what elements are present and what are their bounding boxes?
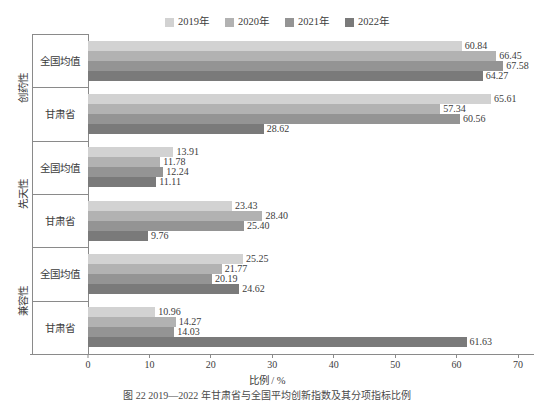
legend-item[interactable]: 2020年: [225, 17, 269, 27]
legend-item[interactable]: 2021年: [285, 17, 329, 27]
tick-label: 30: [267, 359, 277, 370]
category-axis: 创药性全国均值甘肃省先天性全国均值甘肃省兼容性全国均值甘肃省: [10, 34, 88, 354]
legend-label: 2022年: [358, 17, 389, 27]
category-subgroup-label-text: 全国均值: [40, 160, 80, 175]
x-axis-tick: 50: [390, 354, 400, 370]
bar-value-label: 61.63: [470, 337, 493, 347]
category-group: 创药性全国均值甘肃省: [10, 34, 88, 141]
legend-item[interactable]: 2019年: [165, 17, 209, 27]
bar-row: 11.11: [88, 177, 181, 187]
bar[interactable]: [88, 211, 262, 221]
bar[interactable]: [88, 167, 163, 177]
bar[interactable]: [88, 94, 491, 104]
x-axis-tick: 40: [329, 354, 339, 370]
bar[interactable]: [88, 147, 173, 157]
tick-label: 10: [144, 359, 154, 370]
x-axis-tick: 20: [206, 354, 216, 370]
bar-row: 57.34: [88, 104, 466, 114]
tick-label: 20: [206, 359, 216, 370]
legend-label: 2020年: [238, 17, 269, 27]
bar[interactable]: [88, 201, 232, 211]
category-group-label: 创药性: [12, 34, 32, 141]
bar[interactable]: [88, 61, 503, 71]
bar-row: 28.62: [88, 124, 289, 134]
bar-value-label: 24.62: [242, 284, 265, 294]
tick-mark: [149, 354, 150, 358]
tick-mark: [395, 354, 396, 358]
bar[interactable]: [88, 317, 176, 327]
bar[interactable]: [88, 71, 483, 81]
category-subgroup-label: 甘肃省: [32, 194, 88, 247]
bar-value-label: 25.25: [246, 254, 269, 264]
legend-swatch-icon: [345, 18, 354, 27]
category-group-label-text: 兼容性: [15, 286, 30, 316]
bar-value-label: 60.56: [463, 114, 486, 124]
subgroup-separator: [32, 194, 88, 195]
tick-label: 70: [513, 359, 523, 370]
bar[interactable]: [88, 231, 148, 241]
bar[interactable]: [88, 41, 462, 51]
bar-row: 64.27: [88, 71, 508, 81]
bar[interactable]: [88, 124, 264, 134]
x-axis-tick: 70: [513, 354, 523, 370]
category-subgroup-label-text: 全国均值: [40, 53, 80, 68]
subgroup-separator: [32, 87, 88, 88]
bar-value-label: 60.84: [465, 41, 488, 51]
group-separator: [32, 141, 88, 142]
category-subgroup-label-text: 甘肃省: [45, 320, 75, 335]
group-separator: [32, 34, 88, 35]
legend-label: 2019年: [178, 17, 209, 27]
tick-mark: [456, 354, 457, 358]
tick-label: 50: [390, 359, 400, 370]
bar-value-label: 20.19: [215, 274, 238, 284]
bar[interactable]: [88, 264, 222, 274]
bar-value-label: 28.62: [267, 124, 290, 134]
legend-label: 2021年: [298, 17, 329, 27]
chart-figure: 2019年2020年2021年2022年 创药性全国均值甘肃省先天性全国均值甘肃…: [0, 0, 534, 401]
category-group-label: 先天性: [12, 141, 32, 248]
x-axis-title: 比例 / %: [0, 372, 534, 387]
bar[interactable]: [88, 327, 174, 337]
category-subgroup-label-text: 全国均值: [40, 266, 80, 281]
tick-mark: [333, 354, 334, 358]
bar[interactable]: [88, 104, 440, 114]
bar-row: 9.76: [88, 231, 168, 241]
bar-row: 25.40: [88, 221, 270, 231]
x-axis-tick: 0: [86, 354, 91, 370]
bar[interactable]: [88, 254, 243, 264]
bar[interactable]: [88, 157, 160, 167]
bar-row: 60.84: [88, 41, 487, 51]
tick-label: 40: [329, 359, 339, 370]
bar-value-label: 23.43: [235, 201, 258, 211]
category-group-label-text: 先天性: [15, 179, 30, 209]
category-subgroup-label: 甘肃省: [32, 87, 88, 140]
bar-value-label: 9.76: [151, 231, 169, 241]
legend-swatch-icon: [285, 18, 294, 27]
x-axis-tick: 60: [452, 354, 462, 370]
legend-item[interactable]: 2022年: [345, 17, 389, 27]
bar-value-label: 67.58: [506, 61, 529, 71]
bar-row: 61.63: [88, 337, 492, 347]
bars-layer: 60.8466.4567.5864.2765.6157.3460.5628.62…: [88, 34, 534, 354]
bar-row: 10.96: [88, 307, 181, 317]
category-group: 先天性全国均值甘肃省: [10, 141, 88, 248]
bar[interactable]: [88, 177, 156, 187]
bar[interactable]: [88, 284, 239, 294]
tick-mark: [210, 354, 211, 358]
bar[interactable]: [88, 51, 496, 61]
category-subgroup-label: 全国均值: [32, 247, 88, 300]
group-separator: [32, 247, 88, 248]
bar-value-label: 10.96: [158, 307, 181, 317]
bar[interactable]: [88, 337, 467, 347]
category-subgroup-label-text: 甘肃省: [45, 106, 75, 121]
legend-swatch-icon: [225, 18, 234, 27]
bar[interactable]: [88, 307, 155, 317]
bar-row: 67.58: [88, 61, 529, 71]
x-axis-tick: 10: [144, 354, 154, 370]
category-subgroup-label: 全国均值: [32, 34, 88, 87]
bar-value-label: 25.40: [247, 221, 270, 231]
category-subgroup-label: 甘肃省: [32, 301, 88, 354]
category-subgroup-label-text: 甘肃省: [45, 213, 75, 228]
x-axis-ticks: 010203040506070: [88, 354, 518, 370]
bar[interactable]: [88, 274, 212, 284]
